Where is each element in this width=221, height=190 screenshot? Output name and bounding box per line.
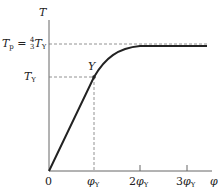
ty-label: TY bbox=[24, 70, 36, 84]
yield-point-marker bbox=[92, 75, 96, 79]
three-phiy-label: 3φY bbox=[176, 175, 195, 189]
y-axis-label: T bbox=[39, 6, 46, 19]
yield-point-label: Y bbox=[88, 60, 95, 73]
two-phiy-label: 2φY bbox=[129, 175, 148, 189]
torque-twist-diagram bbox=[0, 0, 221, 190]
x-axis-label: φ bbox=[210, 175, 218, 188]
phiy-label: φY bbox=[87, 175, 99, 189]
origin-label: 0 bbox=[45, 175, 52, 188]
tp-label: Tp = 43TY bbox=[2, 37, 46, 51]
torque-curve bbox=[49, 46, 207, 171]
